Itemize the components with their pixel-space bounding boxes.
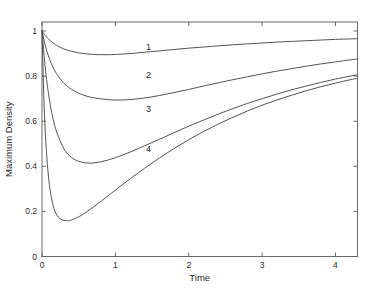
- x-tick-label-3: 3: [260, 260, 265, 270]
- x-tick-label-2: 2: [186, 260, 191, 270]
- x-tick-label-1: 1: [113, 260, 118, 270]
- x-tick-label-0: 0: [40, 260, 45, 270]
- y-tick-label-0: 0: [32, 252, 37, 262]
- curve-label-1: 1: [146, 42, 151, 52]
- y-tick-label-4: 0.8: [25, 71, 37, 81]
- curve-label-2: 2: [146, 70, 151, 80]
- x-axis-title: Time: [189, 272, 210, 283]
- y-tick-label-2: 0.4: [25, 161, 37, 171]
- chart-figure: 01234 00.20.40.60.81 1234 Time Maximum D…: [0, 0, 369, 289]
- y-tick-label-3: 0.6: [25, 116, 37, 126]
- y-tick-label-5: 1: [32, 26, 37, 36]
- y-axis-title: Maximum Density: [3, 101, 14, 177]
- x-tick-label-4: 4: [333, 260, 338, 270]
- figure-background: [0, 0, 369, 289]
- y-tick-label-1: 0.2: [25, 206, 37, 216]
- curve-label-3: 3: [146, 104, 151, 114]
- curve-label-4: 4: [146, 144, 151, 154]
